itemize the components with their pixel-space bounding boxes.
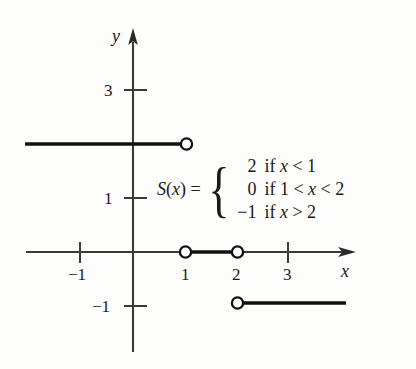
case-if-word: if: [264, 202, 275, 222]
x-tick-label-3: 3: [283, 266, 292, 283]
formula-brace: {: [208, 167, 229, 212]
case-value: −1: [234, 202, 256, 223]
open-endpoint-x2-y0: [232, 246, 243, 257]
formula-argument: x: [172, 179, 180, 199]
case-variable: x: [280, 202, 288, 222]
case-variable: x: [280, 156, 288, 176]
x-axis-label: x: [341, 262, 349, 280]
case-relation: 1 < x < 2: [280, 179, 344, 199]
case-relation: > 2: [292, 202, 316, 222]
y-tick-label-minus-1: −1: [92, 298, 110, 315]
piecewise-function-figure: y x 3 1 −1 −1 1 2 3 S(x) = { 2 if x < 1 …: [0, 0, 416, 369]
case-variable: x: [308, 179, 316, 199]
case-condition: if 1 < x < 2: [256, 179, 344, 200]
case-condition: if x < 1: [256, 156, 316, 177]
formula-equals-sign: =: [191, 179, 201, 199]
formula-case-row: 2 if x < 1: [234, 156, 344, 177]
formula-left-hand-side: S(x) =: [157, 179, 204, 200]
formula-function-name: S: [157, 179, 166, 199]
formula-case-row: 0 if 1 < x < 2: [234, 179, 344, 200]
formula-paren-close: ): [180, 179, 186, 199]
y-tick-label-1: 1: [104, 190, 113, 207]
case-condition: if x > 2: [256, 202, 316, 223]
open-endpoint-x2-y-neg1: [232, 297, 243, 308]
formula-case-row: −1 if x > 2: [234, 202, 344, 223]
formula-cases-list: 2 if x < 1 0 if 1 < x < 2 −1 if x > 2: [234, 156, 344, 223]
open-endpoint-x1-y2: [181, 138, 192, 149]
case-value: 2: [234, 156, 256, 177]
case-relation: < 1: [292, 156, 316, 176]
x-tick-label-1: 1: [181, 266, 190, 283]
piecewise-formula: S(x) = { 2 if x < 1 0 if 1 < x < 2 −1 if…: [157, 156, 344, 223]
case-if-word: if: [264, 179, 275, 199]
y-tick-label-3: 3: [104, 82, 113, 99]
x-tick-label-2: 2: [232, 266, 241, 283]
open-endpoint-x1-y0: [180, 246, 191, 257]
case-if-word: if: [264, 156, 275, 176]
x-tick-label-minus-1: −1: [68, 266, 86, 283]
case-value: 0: [234, 179, 256, 200]
y-axis-label: y: [112, 27, 120, 45]
